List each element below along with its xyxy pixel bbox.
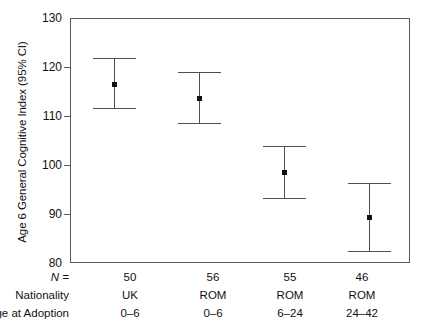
figure-container: Age 6 General Cognitive Index (95% CI) 8…: [0, 0, 425, 330]
row-label-age-at-adoption: Age at Adoption: [0, 304, 69, 322]
error-bar-lower-cap: [263, 198, 306, 199]
error-bar-lower-cap: [178, 123, 221, 124]
data-point-marker: [282, 170, 287, 175]
table-row-nationality: Nationality UK ROM ROM ROM: [0, 286, 425, 304]
cell-nationality-1: ROM: [173, 286, 253, 304]
plot-area: [70, 18, 410, 263]
data-point-marker: [197, 96, 202, 101]
y-tick-label-100: 100: [22, 159, 62, 171]
error-bar-upper-cap: [178, 72, 221, 73]
cell-nationality-2: ROM: [250, 286, 330, 304]
cell-n-2: 55: [250, 268, 330, 286]
row-label-nationality: Nationality: [0, 286, 69, 304]
cell-n-1: 56: [173, 268, 253, 286]
cell-age-1: 0–6: [173, 304, 253, 322]
y-tick-label-130: 130: [22, 12, 62, 24]
bottom-annotation-table: N = 50 56 55 46 Nationality UK ROM ROM R…: [0, 268, 425, 322]
cell-n-0: 50: [90, 268, 170, 286]
y-tick-label-110: 110: [22, 110, 62, 122]
cell-age-2: 6–24: [250, 304, 330, 322]
error-bar-lower-cap: [348, 251, 391, 252]
y-tick-label-120: 120: [22, 61, 62, 73]
error-bar-upper-cap: [263, 146, 306, 147]
data-point-marker: [112, 82, 117, 87]
error-bar-upper-cap: [93, 58, 136, 59]
row-label-n: N =: [0, 268, 69, 286]
cell-age-3: 24–42: [322, 304, 402, 322]
data-point-marker: [367, 215, 372, 220]
table-row-age-at-adoption: Age at Adoption 0–6 0–6 6–24 24–42: [0, 304, 425, 322]
error-bar-lower-cap: [93, 108, 136, 109]
error-bar-upper-cap: [348, 183, 391, 184]
y-tick-label-90: 90: [22, 208, 62, 220]
cell-nationality-0: UK: [90, 286, 170, 304]
cell-nationality-3: ROM: [322, 286, 402, 304]
y-axis-title: Age 6 General Cognitive Index (95% CI): [13, 15, 31, 270]
cell-age-0: 0–6: [90, 304, 170, 322]
cell-n-3: 46: [322, 268, 402, 286]
table-row-n: N = 50 56 55 46: [0, 268, 425, 286]
